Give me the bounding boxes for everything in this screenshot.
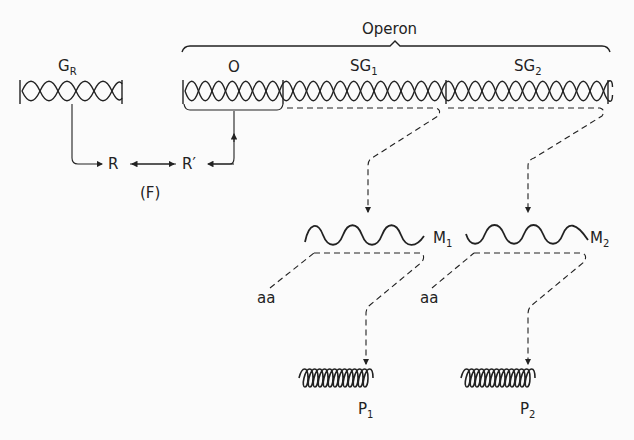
mrna-2-wave [466,225,588,244]
operon-diagram: Operon GR O SG1 SG2 R R′ (F) M1 M2 aa aa… [0,0,634,440]
operon-bracket [182,41,610,52]
regulator-to-repressor-arrow [72,104,102,164]
regulator-gene-label: GR [58,59,77,77]
repressor-complex-label: R′ [182,157,196,172]
repressor-label: R [108,157,118,172]
aa-to-m1 [270,253,314,288]
protein-1-label: P1 [358,402,373,420]
mrna-1-wave [305,225,424,245]
operon-label: Operon [362,22,417,37]
operator-bracket [184,104,283,110]
transcription-sg2 [448,108,604,212]
transcription-sg1 [287,108,440,212]
structural-gene-2-label: SG2 [514,59,542,77]
regulator-gene-helix [20,80,122,104]
protein-2-label: P2 [520,402,535,420]
aa-to-m2 [432,253,474,288]
mrna-1-label: M1 [433,231,452,249]
protein-1-coil [299,369,373,387]
amino-acid-1-label: aa [257,291,275,306]
figure-tag: (F) [140,186,160,201]
structural-gene-1-label: SG1 [350,59,378,77]
operator-label: O [228,60,240,75]
operon-helix [183,80,613,104]
complex-to-operator-arrow [210,111,234,164]
translation-m2 [474,253,586,364]
protein-2-coil [461,369,535,387]
mrna-2-label: M2 [590,231,609,249]
amino-acid-2-label: aa [420,291,438,306]
translation-m1 [314,253,424,364]
